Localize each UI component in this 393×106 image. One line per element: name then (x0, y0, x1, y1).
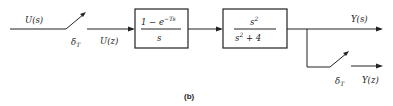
zoh-block: 1 − e−Ts s (135, 9, 188, 48)
block-diagram: U(s) δT U(z) 1 − e−Ts s s2 s2 + 4 Y(s) δ… (0, 0, 393, 106)
figure-caption: (b) (184, 92, 195, 101)
output-signal-label: Y(s) (351, 14, 368, 24)
arrow-head (376, 27, 383, 32)
plant-block: s2 s2 + 4 (223, 9, 287, 48)
arrow-head (216, 27, 223, 32)
input-signal-label: U(s) (25, 15, 43, 25)
branch-line (307, 29, 330, 67)
output-sampler-label: δT (335, 76, 345, 87)
arrow-head (376, 64, 383, 69)
sampled-input-label: U(z) (100, 36, 118, 46)
plant-denominator: s2 + 4 (235, 31, 261, 43)
input-sampler-label: δT (71, 37, 81, 48)
input-sampler-switch (66, 12, 86, 29)
arrow-head (128, 27, 135, 32)
output-sampler-switch (330, 51, 349, 67)
sampled-output-label: Y(z) (362, 75, 379, 85)
zoh-denominator: s (157, 33, 162, 43)
